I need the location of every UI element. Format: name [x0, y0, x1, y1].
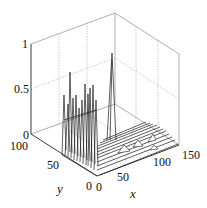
grid-lines — [31, 23, 179, 166]
surface-plot: 1 0.5 0 100 50 0 0 50 100 150 y x — [0, 0, 207, 208]
y-tick-100: 100 — [10, 139, 28, 153]
x-tick-100: 100 — [153, 155, 171, 169]
x-tick-50: 50 — [117, 170, 129, 184]
y-axis-label: y — [55, 181, 63, 196]
x-axis-label: x — [129, 186, 136, 201]
plot-canvas: 1 0.5 0 100 50 0 0 50 100 150 y x — [0, 0, 207, 208]
y-tick-0: 0 — [86, 179, 92, 193]
z-tick-0.5: 0.5 — [14, 82, 29, 96]
x-tick-0: 0 — [96, 180, 102, 194]
z-tick-1: 1 — [22, 37, 28, 51]
y-tick-50: 50 — [47, 158, 59, 172]
x-tick-150: 150 — [182, 148, 200, 162]
tick-labels: 1 0.5 0 100 50 0 0 50 100 150 — [10, 37, 200, 194]
